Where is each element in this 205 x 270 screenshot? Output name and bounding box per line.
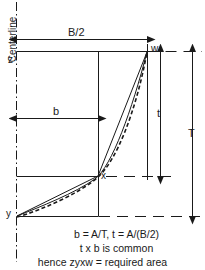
- figure-canvas: Centerline z w x y B/2 b t T b = A/T, t …: [0, 0, 205, 270]
- caption-line-2: t x b is common: [0, 243, 205, 254]
- dim-label-b: b: [53, 106, 59, 117]
- dim-label-b-half: B/2: [68, 27, 85, 38]
- point-label-w: w: [151, 44, 158, 54]
- caption-line-3: hence zyxw = required area: [0, 257, 205, 268]
- point-label-z: z: [8, 55, 13, 65]
- caption-line-1: b = A/T, t = A/(B/2): [0, 229, 205, 240]
- point-label-x: x: [101, 171, 106, 181]
- smooth-curve-solid: [17, 52, 147, 216]
- point-label-y: y: [6, 209, 11, 219]
- hyperbola-curve-dashed: [17, 52, 147, 217]
- dim-label-T-total: T: [188, 128, 195, 139]
- dim-label-t: t: [157, 108, 160, 119]
- chord-curve-solid: [17, 52, 147, 216]
